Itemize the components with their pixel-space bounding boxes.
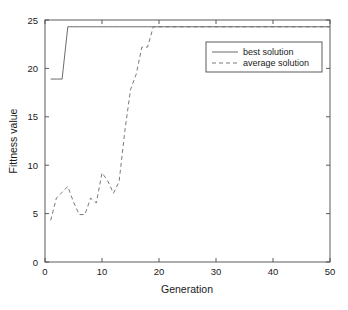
x-tick-label: 50 xyxy=(325,266,336,277)
legend-label-average-solution: average solution xyxy=(243,58,309,68)
x-tick-label: 0 xyxy=(42,266,47,277)
chart-legend: best solution average solution xyxy=(206,42,322,72)
y-tick-label: 25 xyxy=(27,15,38,26)
y-tick-label: 5 xyxy=(33,208,38,219)
fitness-chart-figure: 01020304050 0510152025 Generation Fittne… xyxy=(0,0,348,310)
y-tick-label: 20 xyxy=(27,63,38,74)
y-tick-label: 15 xyxy=(27,111,38,122)
y-tick-label: 0 xyxy=(33,257,38,268)
legend-label-best-solution: best solution xyxy=(243,47,294,57)
chart-canvas: 01020304050 0510152025 Generation Fittne… xyxy=(0,0,348,310)
x-axis-title: Generation xyxy=(161,283,213,295)
x-tick-label: 10 xyxy=(97,266,108,277)
x-tick-label: 20 xyxy=(154,266,165,277)
y-axis-tick-labels: 0510152025 xyxy=(27,15,38,268)
x-tick-label: 40 xyxy=(268,266,279,277)
x-tick-label: 30 xyxy=(211,266,222,277)
x-axis-tick-labels: 01020304050 xyxy=(42,266,335,277)
y-axis-title: Fittness value xyxy=(7,108,19,173)
y-tick-label: 10 xyxy=(27,160,38,171)
